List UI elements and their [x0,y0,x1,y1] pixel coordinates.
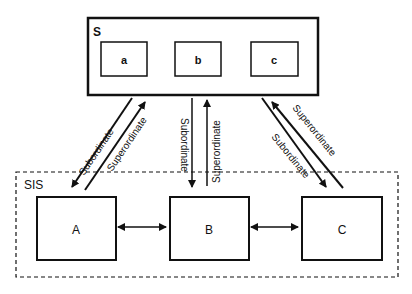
box-c: c [251,42,298,76]
box-c-label: c [271,54,277,66]
container-s-label: S [93,25,101,39]
box-b-label: b [195,54,202,66]
box-C-label: C [338,223,347,237]
box-A: A [37,197,116,260]
box-B-label: B [205,223,213,237]
box-A-label: A [72,223,80,237]
label-superordinate-a: Superordinate [105,115,149,174]
box-a: a [101,42,147,76]
box-b: b [175,42,221,76]
box-a-label: a [121,54,128,66]
box-C: C [302,197,382,260]
label-subordinate-b: Subordinate [179,118,190,172]
box-B: B [170,197,249,260]
label-superordinate-b: Superordinate [211,120,222,183]
diagram-canvas: S a b c SIS A B C Subordinate Superordin… [0,0,412,294]
label-superordinate-c: Superordinate [290,102,338,158]
container-sis-label: SIS [24,178,43,192]
